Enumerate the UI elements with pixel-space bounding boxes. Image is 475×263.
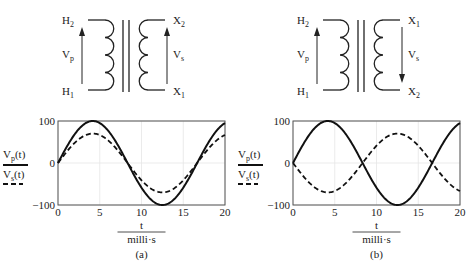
panel-a: H2H1VpX2X1Vs05101520−1000100Vp(t)Vs(t)tm… <box>3 14 231 261</box>
secondary-coil <box>374 20 383 90</box>
primary-voltage-label: Vp <box>62 48 74 63</box>
y-tick-label: −100 <box>267 199 290 211</box>
figure-canvas: H2H1VpX2X1Vs05101520−1000100Vp(t)Vs(t)tm… <box>0 0 475 263</box>
chart-legend: Vp(t)Vs(t) <box>3 148 28 184</box>
x-axis-label-denominator: milli·s <box>127 233 156 245</box>
legend-label-vs: Vs(t) <box>238 168 260 183</box>
x-tick-label: 20 <box>455 206 467 218</box>
primary-voltage-arrow-icon-head <box>314 27 320 36</box>
legend-label-vp: Vp(t) <box>3 148 26 163</box>
terminal-label-primary-bottom: H1 <box>62 85 74 100</box>
terminal-label-secondary-bottom: X1 <box>173 85 185 100</box>
y-tick-label: 0 <box>285 157 291 169</box>
x-tick-label: 10 <box>136 206 148 218</box>
panel-caption: (a) <box>135 248 148 261</box>
legend-label-vs: Vs(t) <box>3 168 25 183</box>
primary-coil <box>105 20 114 90</box>
panel-b: H2H1VpX1X2Vs05101520−1000100Vp(t)Vs(t)tm… <box>238 14 466 261</box>
terminal-label-secondary-top: X2 <box>173 14 185 29</box>
y-tick-label: 0 <box>50 157 56 169</box>
x-axis-label-numerator: t <box>140 219 143 231</box>
x-tick-label: 5 <box>97 206 103 218</box>
terminal-label-primary-top: H2 <box>62 14 74 29</box>
chart-a: 05101520−1000100Vp(t)Vs(t)tmilli·s(a) <box>3 115 231 261</box>
secondary-voltage-arrow-icon-head <box>399 74 405 83</box>
terminal-label-primary-top: H2 <box>297 14 309 29</box>
x-tick-label: 10 <box>371 206 383 218</box>
terminal-label-primary-bottom: H1 <box>297 85 309 100</box>
secondary-voltage-label: Vs <box>173 48 184 63</box>
y-tick-label: −100 <box>32 199 55 211</box>
transformer-schematic: H2H1VpX2X1Vs <box>62 14 185 100</box>
secondary-voltage-label: Vs <box>408 48 419 63</box>
transformer-schematic: H2H1VpX1X2Vs <box>297 14 420 100</box>
x-axis-label-denominator: milli·s <box>362 233 391 245</box>
terminal-label-secondary-top: X1 <box>408 14 420 29</box>
secondary-voltage-arrow-icon-head <box>164 27 170 36</box>
x-tick-label: 15 <box>413 206 425 218</box>
x-tick-label: 15 <box>178 206 190 218</box>
chart-b: 05101520−1000100Vp(t)Vs(t)tmilli·s(b) <box>238 115 466 261</box>
x-tick-label: 0 <box>290 206 296 218</box>
x-tick-label: 5 <box>332 206 338 218</box>
primary-coil <box>340 20 349 90</box>
x-axis-label-numerator: t <box>375 219 378 231</box>
x-tick-label: 20 <box>220 206 232 218</box>
x-tick-label: 0 <box>55 206 61 218</box>
primary-voltage-arrow-icon-head <box>79 27 85 36</box>
y-tick-label: 100 <box>39 115 56 127</box>
y-tick-label: 100 <box>274 115 291 127</box>
panel-caption: (b) <box>370 248 383 261</box>
secondary-coil <box>139 20 148 90</box>
terminal-label-secondary-bottom: X2 <box>408 85 420 100</box>
legend-label-vp: Vp(t) <box>238 148 261 163</box>
primary-voltage-label: Vp <box>297 48 309 63</box>
chart-legend: Vp(t)Vs(t) <box>238 148 263 184</box>
